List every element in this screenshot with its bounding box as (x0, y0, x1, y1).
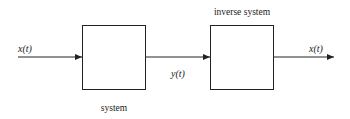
intermediate-label: y(t) (170, 68, 186, 80)
system-label: system (101, 103, 128, 113)
system-block (83, 26, 146, 90)
block-diagram: x(t) system y(t) inverse system x(t) (0, 0, 350, 119)
output-label: x(t) (308, 43, 324, 55)
input-label: x(t) (17, 43, 33, 55)
inverse-system-label: inverse system (214, 7, 271, 17)
inverse-system-block (211, 26, 274, 90)
